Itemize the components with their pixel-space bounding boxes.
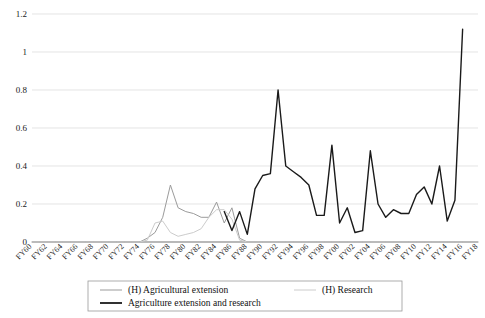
x-axis-tick-label: FY74 (122, 242, 141, 261)
x-axis-tick-label: FY72 (106, 242, 125, 261)
x-axis-tick-label: FY98 (306, 242, 325, 261)
y-axis-tick-label: 1.2 (16, 9, 27, 19)
y-axis-tick-label: 0.8 (16, 85, 28, 95)
x-axis-tick-label: FY64 (45, 242, 64, 261)
x-axis-tick-labels: FY60FY62FY64FY66FY68FY70FY72FY74FY76FY78… (14, 242, 479, 261)
chart-canvas: 00.20.40.60.811.2 FY60FY62FY64FY66FY68FY… (0, 0, 485, 318)
legend-label: (H) Research (322, 285, 373, 296)
x-axis-tick-label: FY66 (60, 242, 79, 261)
x-axis-tick-label: FY78 (153, 242, 172, 261)
data-series-group (32, 29, 478, 242)
x-axis-tick-label: FY76 (137, 242, 156, 261)
x-axis-tick-label: FY10 (399, 242, 418, 261)
line-chart: 00.20.40.60.811.2 FY60FY62FY64FY66FY68FY… (0, 0, 485, 318)
y-axis-tick-label: 0.6 (16, 123, 28, 133)
x-axis-tick-label: FY18 (460, 242, 479, 261)
x-axis-tick-label: FY00 (322, 242, 341, 261)
x-axis-tick-label: FY06 (368, 242, 387, 261)
x-axis-tick-label: FY86 (214, 242, 233, 261)
x-axis-tick-label: FY02 (337, 242, 356, 261)
x-axis-tick-label: FY82 (183, 242, 202, 261)
x-axis-tick-label: FY14 (429, 242, 448, 261)
x-axis-tick-label: FY96 (291, 242, 310, 261)
series-line (32, 185, 478, 242)
y-axis-tick-label: 1 (23, 47, 28, 57)
x-axis-tick-label: FY08 (383, 242, 402, 261)
x-axis-tick-label: FY94 (276, 242, 295, 261)
x-axis-tick-label: FY90 (245, 242, 264, 261)
x-axis-tick-label: FY04 (352, 242, 371, 261)
y-axis-tick-label: 0.2 (16, 199, 27, 209)
x-axis-tick-label: FY62 (30, 242, 49, 261)
x-axis-tick-label: FY88 (229, 242, 248, 261)
x-axis-tick-label: FY84 (199, 242, 218, 261)
series-line (32, 210, 478, 242)
y-axis-tick-labels: 00.20.40.60.811.2 (16, 9, 28, 247)
series-line (224, 29, 462, 234)
x-axis-tick-label: FY60 (14, 242, 33, 261)
x-axis-tick-label: FY70 (91, 242, 110, 261)
x-axis-tick-label: FY68 (76, 242, 95, 261)
x-axis-tick-label: FY80 (168, 242, 187, 261)
x-axis-tick-label: FY16 (445, 242, 464, 261)
y-axis-tick-label: 0.4 (16, 161, 28, 171)
x-axis-tick-label: FY92 (260, 242, 279, 261)
legend-label: Agriculture extension and research (128, 298, 261, 308)
x-axis-tick-label: FY12 (414, 242, 433, 261)
legend-label: (H) Agricultural extension (128, 285, 229, 296)
chart-legend: (H) Agricultural extension(H) ResearchAg… (88, 281, 402, 311)
